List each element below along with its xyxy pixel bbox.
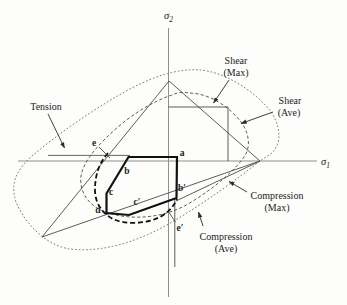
point-label-a: a [180,148,185,158]
compression-max-line-2 [176,161,260,201]
normal-stress-rectangle [169,107,229,161]
compression-ave-label-line2: (Ave) [215,243,238,255]
point-label-e: e [92,138,96,148]
compression-max-arrow [229,182,247,193]
point-label-e-prime: e′ [177,223,184,233]
point-label-c: c [109,187,113,197]
compression-max-label-line1: Compression [251,190,304,201]
point-label-d: d [95,205,101,215]
failure-criteria-diagram: σ2 σ1 Tension Shear (Max) Shear (Ave) Co… [0,0,347,305]
diagram-canvas: σ2 σ1 Tension Shear (Max) Shear (Ave) Co… [0,0,347,305]
sigma1-axis-label: σ1 [321,156,330,170]
shear-ave-label-line1: Shear [279,95,302,106]
shear-ave-arrow [241,112,273,124]
compression-max-line [42,161,260,237]
compression-ave-label-line1: Compression [200,231,253,242]
point-label-b-prime: b′ [178,183,186,193]
compression-ave-arrow [199,212,204,226]
sigma2-axis-label: σ2 [164,10,173,24]
shear-ave-label-line2: (Ave) [278,107,301,119]
tension-label: Tension [30,101,62,112]
shear-max-label-line1: Shear [225,55,248,66]
shear-max-label-line2: (Max) [224,67,249,79]
tension-arrow [48,114,65,148]
thick-max-criterion-polygon [107,157,178,215]
point-label-b: b [124,166,129,176]
compression-max-label-line2: (Max) [265,202,290,214]
shear-max-arrow [214,80,230,103]
point-label-c-prime: c′ [134,197,141,207]
